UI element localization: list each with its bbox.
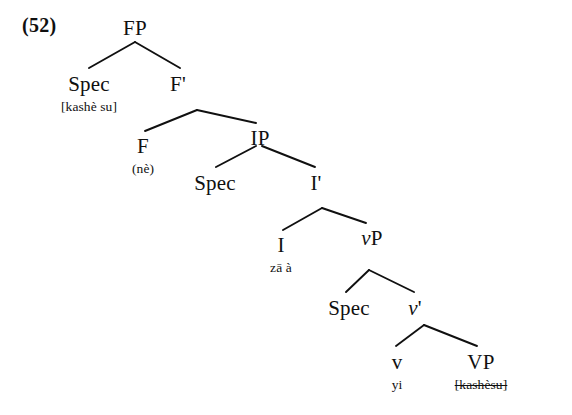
node-category-label: F' <box>170 74 186 95</box>
tree-node-vbar: v' <box>408 298 422 319</box>
node-category-label: VP <box>455 352 508 373</box>
tree-node-f: F(nè) <box>132 136 154 176</box>
tree-branch-ibar-to-i <box>283 208 322 230</box>
tree-node-fp: FP <box>123 18 147 39</box>
tree-branch-fp-to-fbar <box>135 42 180 68</box>
example-number: (52) <box>22 14 57 37</box>
tree-branch-ip-to-ibar <box>262 146 315 167</box>
node-gloss-label: zā à <box>270 261 292 275</box>
tree-node-ibar: I' <box>310 173 321 194</box>
tree-node-vp: vP <box>361 228 382 249</box>
tree-branch-vbar-to-vp <box>424 325 477 346</box>
node-gloss-label: (nè) <box>132 162 154 176</box>
tree-node-ip: IP <box>250 128 269 149</box>
tree-node-spec-ip: Spec <box>194 173 236 194</box>
node-gloss-label: yi <box>392 378 403 392</box>
tree-branch-fp-to-spec_fp <box>89 42 135 68</box>
node-gloss-label: [kashèsu] <box>455 378 508 392</box>
node-category-label: Spec <box>194 173 236 194</box>
tree-node-vp: VP[kashèsu] <box>455 352 508 392</box>
node-category-label: I <box>270 235 292 256</box>
tree-branch-vbar-to-v <box>396 325 424 346</box>
tree-node-v: vyi <box>392 352 403 392</box>
tree-node-spec-vp: Spec <box>328 298 370 319</box>
node-category-label: FP <box>123 18 147 39</box>
tree-branch-vp-to-spec_vp <box>346 270 369 292</box>
node-category-label: v' <box>408 298 422 319</box>
node-category-label: I' <box>310 173 321 194</box>
tree-node-i: Izā à <box>270 235 292 275</box>
node-category-label: Spec <box>328 298 370 319</box>
tree-branch-fbar-to-ip <box>197 110 256 123</box>
tree-branch-fbar-to-f <box>145 110 197 131</box>
tree-node-fbar: F' <box>170 74 186 95</box>
node-gloss-label: [kashè su] <box>61 100 117 114</box>
syntax-tree-figure: (52) FPSpec[kashè su]F'F(nè)IPSpecI'Izā … <box>0 0 572 415</box>
tree-branch-ibar-to-vp <box>322 208 366 223</box>
node-category-label: IP <box>250 128 269 149</box>
node-category-label: Spec <box>61 74 117 95</box>
tree-branch-vp-to-vbar <box>369 270 414 292</box>
node-category-label: v <box>392 352 403 373</box>
node-category-label: vP <box>361 228 382 249</box>
tree-node-spec-fp: Spec[kashè su] <box>61 74 117 114</box>
node-category-label: F <box>132 136 154 157</box>
